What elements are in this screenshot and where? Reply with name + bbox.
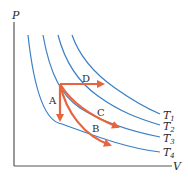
label-t4: T4 [163, 146, 175, 160]
label-b: B [92, 123, 99, 134]
label-t3: T3 [163, 132, 175, 146]
label-c: C [97, 107, 105, 118]
x-axis-label: V [173, 160, 182, 173]
label-d: D [82, 73, 90, 84]
isotherm-labels: T1 T2 T3 T4 [163, 109, 175, 160]
isotherms [28, 35, 160, 152]
isotherm-t2 [58, 35, 160, 125]
y-axis-label: P [11, 9, 20, 22]
axes: P V [11, 9, 182, 173]
label-a: A [48, 95, 57, 106]
process-arrows [60, 84, 118, 145]
arrow-c [60, 84, 118, 127]
pv-diagram: P V T1 T2 T3 T4 A B C D [0, 0, 188, 181]
